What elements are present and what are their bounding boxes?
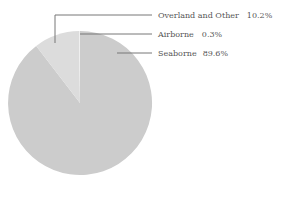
label-seaborne: Seaborne89.6% <box>158 49 228 58</box>
label-overland: Overland and Other10.2% <box>158 11 273 20</box>
label-airborne: Airborne0.3% <box>157 30 223 39</box>
pie-chart: Overland and Other10.2% Airborne0.3% Sea… <box>0 0 283 209</box>
